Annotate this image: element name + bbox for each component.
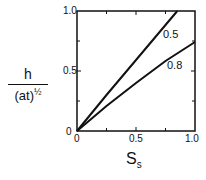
y-axis-label: h (at)½: [8, 66, 48, 103]
x-tick-0.5: 0.5: [129, 134, 143, 144]
y-tick-0: 0: [66, 127, 72, 137]
y-tick-0.5: 0.5: [63, 66, 77, 76]
x-axis-label: Ss: [126, 150, 142, 170]
curve-label-0.8: 0.8: [167, 60, 182, 71]
y-label-denominator: (at)½: [8, 85, 48, 103]
curve-0.8: [77, 42, 195, 131]
x-tick-0: 0: [74, 134, 80, 144]
curve-label-0.5: 0.5: [163, 29, 178, 40]
x-tick-1.0: 1.0: [185, 134, 199, 144]
y-tick-1.0: 1.0: [63, 6, 77, 16]
y-label-numerator: h: [8, 66, 48, 85]
